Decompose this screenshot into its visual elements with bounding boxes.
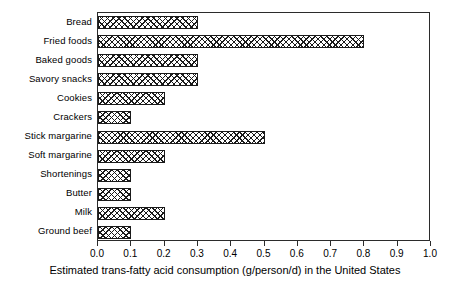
- category-label: Milk: [0, 207, 92, 217]
- category-label: Savory snacks: [0, 74, 92, 84]
- bar: [98, 111, 131, 124]
- x-tick-mark: [97, 241, 98, 246]
- x-tick-label: 1.0: [410, 248, 450, 259]
- category-label: Crackers: [0, 112, 92, 122]
- category-label: Butter: [0, 188, 92, 198]
- x-axis-title: Estimated trans-fatty acid consumption (…: [0, 264, 450, 276]
- plot-area: [97, 12, 430, 241]
- category-label: Bread: [0, 17, 92, 27]
- x-tick-mark: [130, 241, 131, 246]
- x-tick-mark: [397, 241, 398, 246]
- x-tick-mark: [164, 241, 165, 246]
- x-tick-mark: [264, 241, 265, 246]
- bar: [98, 16, 198, 29]
- x-tick-mark: [430, 241, 431, 246]
- category-label: Stick margarine: [0, 131, 92, 141]
- bar: [98, 35, 364, 48]
- bar-chart: BreadFried foodsBaked goodsSavory snacks…: [0, 0, 450, 288]
- bar: [98, 150, 165, 163]
- category-label: Soft margarine: [0, 150, 92, 160]
- bar: [98, 92, 165, 105]
- bar: [98, 188, 131, 201]
- category-label: Cookies: [0, 93, 92, 103]
- category-label: Baked goods: [0, 55, 92, 65]
- bar: [98, 54, 198, 67]
- x-tick-mark: [197, 241, 198, 246]
- category-axis: BreadFried foodsBaked goodsSavory snacks…: [0, 12, 92, 241]
- x-tick-mark: [297, 241, 298, 246]
- bar: [98, 73, 198, 86]
- bar: [98, 131, 265, 144]
- category-label: Ground beef: [0, 226, 92, 236]
- bar: [98, 169, 131, 182]
- x-tick-mark: [230, 241, 231, 246]
- category-label: Fried foods: [0, 36, 92, 46]
- bar: [98, 207, 165, 220]
- x-tick-mark: [330, 241, 331, 246]
- bars-layer: [98, 13, 429, 240]
- category-label: Shortenings: [0, 169, 92, 179]
- x-tick-mark: [363, 241, 364, 246]
- bar: [98, 226, 131, 239]
